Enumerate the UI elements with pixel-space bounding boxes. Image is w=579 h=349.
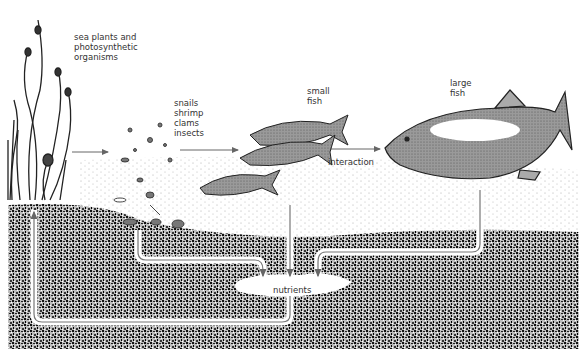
label-large-fish: large fish — [450, 78, 472, 98]
food-web-diagram: sea plants and photosynthetic organisms … — [0, 0, 579, 349]
label-nutrients: nutrients — [273, 285, 311, 295]
label-interaction: interaction — [328, 157, 374, 167]
label-sea-plants: sea plants and photosynthetic organisms — [74, 32, 138, 62]
label-invertebrates: snails shrimp clams insects — [174, 98, 204, 138]
sea-plants-illustration — [8, 20, 71, 200]
large-fish-illustration — [385, 90, 572, 180]
label-small-fish: small fish — [307, 86, 330, 106]
